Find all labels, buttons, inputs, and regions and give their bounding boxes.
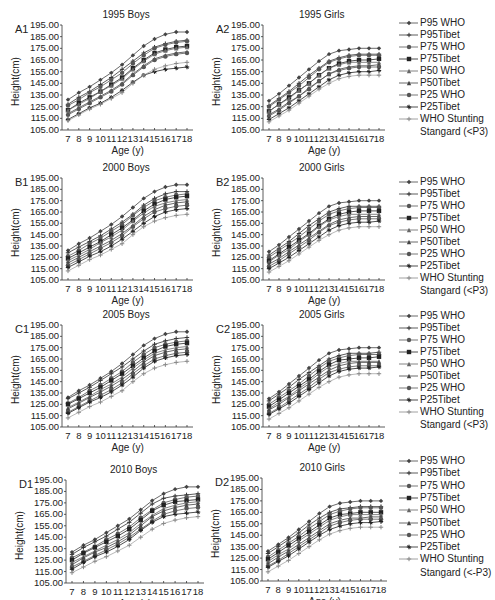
legend-marker-icon	[398, 480, 420, 492]
x-axis-label: Age (y)	[309, 596, 341, 600]
legend-marker-icon	[398, 370, 420, 382]
legend-marker-icon	[398, 236, 420, 248]
series-p25-who	[66, 51, 189, 117]
legend-label: P25Tibet	[420, 101, 460, 113]
legend-label: P50Tibet	[420, 77, 460, 89]
chart-legend: P95 WHOP95TibetP75 WHOP75TibetP50 WHOP50…	[398, 310, 495, 440]
chart-panel-b2: B22000 Girls195.00185.00175.00165.00155.…	[200, 148, 400, 298]
series-p25-who	[267, 65, 381, 118]
series-who-stunting-stangard-p3	[267, 225, 381, 275]
chart-panel-c2: C22005 Girls195.00185.00175.00165.00155.…	[200, 295, 400, 445]
series-p95-who	[267, 46, 381, 103]
legend-label: P25 WHO	[420, 382, 465, 394]
plot-area	[200, 295, 400, 445]
legend-marker-icon	[398, 65, 420, 77]
chart-legend: P95 WHOP95TibetP75 WHOP75TibetP50 WHOP50…	[398, 176, 495, 306]
legend-marker-icon	[398, 467, 420, 479]
series-p50tibet	[70, 502, 200, 567]
series-p75-who	[267, 205, 381, 259]
plot-area	[0, 148, 200, 298]
legend-label: P95 WHO	[420, 310, 465, 322]
series-p95-who	[267, 345, 381, 400]
legend-marker-icon	[398, 113, 420, 125]
legend-marker-icon	[398, 41, 420, 53]
legend-marker-icon	[398, 17, 420, 29]
legend-marker-icon	[398, 224, 420, 236]
legend-label: P75 WHO	[420, 480, 465, 492]
series-p50tibet	[66, 347, 189, 411]
legend-label: P95Tibet	[420, 322, 460, 334]
plot-area	[200, 445, 400, 595]
series-p25tibet	[66, 352, 189, 415]
legend-label: P50 WHO	[420, 224, 465, 236]
legend-marker-icon	[398, 553, 420, 565]
chart-panel-c1: C12005 Boys195.00185.00175.00165.00155.0…	[0, 295, 200, 445]
series-p25tibet	[66, 206, 189, 269]
legend-label: P75 WHO	[420, 41, 465, 53]
legend-label-continuation: Stangard (<-P3)	[420, 567, 491, 579]
legend-marker-icon	[398, 541, 420, 553]
legend-marker-icon	[398, 212, 420, 224]
legend-marker-icon	[398, 394, 420, 406]
series-p50-who	[266, 512, 383, 563]
legend-marker-icon	[398, 77, 420, 89]
legend-label-continuation: Stangard (<P3)	[420, 419, 488, 431]
legend-label: P95Tibet	[420, 29, 460, 41]
series-p95tibet	[267, 204, 381, 257]
series-p95tibet	[66, 189, 189, 255]
legend-marker-icon	[398, 346, 420, 358]
series-p75tibet	[70, 497, 200, 562]
series-who-stunting-stangard-p3	[66, 359, 189, 420]
legend-marker-icon	[398, 188, 420, 200]
legend-label: P95Tibet	[420, 188, 460, 200]
legend-label: P50 WHO	[420, 504, 465, 516]
legend-marker-icon	[398, 492, 420, 504]
legend-marker-icon	[398, 406, 420, 418]
legend-marker-icon	[398, 248, 420, 260]
legend-marker-icon	[398, 529, 420, 541]
legend-label: P50 WHO	[420, 65, 465, 77]
legend-label: P95Tibet	[420, 467, 460, 479]
legend-marker-icon	[398, 53, 420, 65]
legend-marker-icon	[398, 455, 420, 467]
legend-label: P25Tibet	[420, 541, 460, 553]
legend-marker-icon	[398, 29, 420, 41]
chart-legend: P95 WHOP95TibetP75 WHOP75TibetP50 WHOP50…	[398, 455, 495, 585]
chart-panel-d1: D12010 Boys195.00185.00175.00165.00155.0…	[0, 445, 200, 595]
legend-marker-icon	[398, 382, 420, 394]
legend-marker-icon	[398, 101, 420, 113]
series-who-stunting-stangard-p3	[267, 73, 381, 124]
plot-area	[200, 148, 400, 298]
legend-label: P25 WHO	[420, 248, 465, 260]
plot-area	[200, 0, 400, 150]
legend-label: P25Tibet	[420, 260, 460, 272]
plot-area	[0, 445, 200, 595]
legend-marker-icon	[398, 358, 420, 370]
legend-label: P50Tibet	[420, 370, 460, 382]
legend-label: P50Tibet	[420, 236, 460, 248]
legend-marker-icon	[398, 89, 420, 101]
legend-marker-icon	[398, 272, 420, 284]
legend-marker-icon	[398, 176, 420, 188]
legend-marker-icon	[398, 200, 420, 212]
series-p25-who	[266, 517, 383, 568]
legend-label: P95 WHO	[420, 455, 465, 467]
chart-panel-a2: A21995 Girls195.00185.00175.00165.00155.…	[200, 0, 400, 150]
legend-label: P75Tibet	[420, 53, 460, 65]
legend-label: P25 WHO	[420, 529, 465, 541]
legend-label: P75Tibet	[420, 346, 460, 358]
chart-panel-b1: B12000 Boys195.00185.00175.00165.00155.0…	[0, 148, 200, 298]
chart-legend: P95 WHOP95TibetP75 WHOP75TibetP50 WHOP50…	[398, 17, 495, 147]
series-who-stunting-stangard-p3	[66, 60, 189, 123]
legend-label: P50Tibet	[420, 517, 460, 529]
legend-label: P75Tibet	[420, 212, 460, 224]
legend-marker-icon	[398, 310, 420, 322]
legend-label: WHO Stunting	[420, 113, 484, 125]
legend-marker-icon	[398, 322, 420, 334]
series-p25-who	[267, 217, 381, 269]
chart-panel-d2: D22010 Girls195.00185.00175.00165.00155.…	[200, 445, 400, 595]
plot-area	[0, 0, 200, 150]
legend-label: WHO Stunting	[420, 553, 484, 565]
legend-label: P75Tibet	[420, 492, 460, 504]
legend-marker-icon	[398, 517, 420, 529]
